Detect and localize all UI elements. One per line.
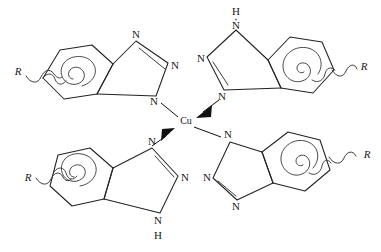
copper-center-label: Cu [180, 115, 192, 126]
br-aromatic-spiral-icon [281, 140, 318, 175]
arrow-tr-n-to-cu-head [196, 105, 212, 118]
bl-nitrogen-bottom: N [154, 214, 162, 226]
tl-nitrogen-bottom: N [150, 95, 158, 107]
ligand-top-right: H N N N R [197, 5, 368, 102]
ligand-bottom-right: N N N R [203, 128, 371, 212]
tr-triazole-ring [207, 30, 281, 90]
tr-hydrogen-top: H [232, 5, 240, 17]
tr-nitrogen-bottom: N [218, 90, 226, 102]
arrow-bl-n-to-cu-head [161, 128, 175, 141]
tr-benzene-ring [268, 37, 334, 93]
copper-coordination-sphere: Cu --> bottom-right N --> Cu --> Cu --> … [152, 100, 221, 146]
bl-r-label: R [24, 171, 32, 183]
bl-double-bond-inner [155, 156, 174, 177]
br-r-wavy-bond [329, 152, 356, 163]
tl-r-label: R [14, 65, 22, 77]
bl-benzene-ring [50, 148, 113, 206]
br-nitrogen-left: N [203, 171, 211, 183]
tl-nitrogen-top: N [132, 28, 140, 40]
tl-spiral-tail [43, 74, 66, 84]
tr-triazole-close [268, 60, 281, 88]
bl-nitrogen-top: N [148, 135, 156, 147]
tl-benzene-ring [43, 45, 113, 99]
br-triazole-close [262, 152, 273, 183]
bond-cu-to-br-n [194, 127, 221, 137]
tr-r-wavy-bond [332, 65, 357, 76]
ligand-top-left: R N N N [14, 28, 179, 107]
tl-nitrogen-right: N [171, 59, 179, 71]
br-r-label: R [363, 148, 371, 160]
bl-triazole-close [104, 168, 113, 199]
tr-nitrogen-left: N [197, 52, 205, 64]
bl-nitrogen-right: N [181, 171, 189, 183]
bl-hydrogen-bottom: H [154, 229, 162, 241]
tl-triazole-close [97, 64, 113, 94]
ligand-bottom-left: R N N N H [24, 135, 189, 241]
br-double-bond-inner [218, 181, 236, 196]
br-nitrogen-bottom: N [232, 200, 240, 212]
bl-aromatic-spiral-icon [61, 154, 96, 186]
tr-r-label: R [360, 60, 368, 72]
bl-triazole-ring [104, 148, 178, 213]
br-nitrogen-top: N [224, 128, 232, 140]
chemical-structure-diagram: R N N N H N N N R [0, 0, 381, 252]
tl-aromatic-spiral-icon [61, 56, 95, 86]
tr-aromatic-spiral-icon [283, 47, 321, 81]
bond-tl-n-to-cu [161, 103, 178, 117]
bl-spiral-tail [54, 168, 77, 179]
tl-triazole-ring [97, 41, 168, 96]
